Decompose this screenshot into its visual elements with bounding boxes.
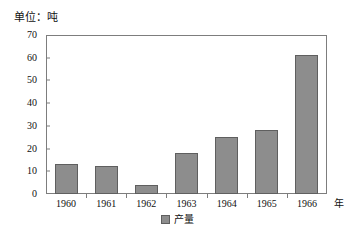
bar-chart-figure: 单位：吨 010203040506070 1960196119621963196… — [0, 0, 355, 237]
y-tick-label: 60 — [27, 53, 37, 63]
x-tick-label: 1961 — [96, 198, 116, 209]
y-tick-mark — [46, 57, 50, 58]
bar — [255, 130, 278, 194]
chart-legend: 产量 — [0, 214, 355, 225]
y-tick-label: 20 — [27, 144, 37, 154]
unit-caption: 单位：吨 — [14, 11, 58, 23]
x-tick-mark — [287, 194, 288, 198]
y-tick-mark — [46, 80, 50, 81]
y-tick-mark — [46, 148, 50, 149]
x-tick-label: 1965 — [257, 198, 277, 209]
x-tick-label: 1962 — [136, 198, 156, 209]
y-tick-label: 50 — [27, 75, 37, 85]
x-tick-label: 1966 — [297, 198, 317, 209]
bar — [295, 55, 318, 194]
y-axis: 010203040506070 — [0, 35, 43, 194]
y-tick-mark — [46, 125, 50, 126]
bar — [135, 185, 158, 194]
bar — [55, 164, 78, 194]
y-tick-label: 0 — [32, 189, 37, 199]
x-tick-mark — [126, 194, 127, 198]
legend-swatch-output — [161, 215, 170, 224]
x-axis-title: 年 — [334, 198, 344, 209]
x-tick-mark — [207, 194, 208, 198]
bar — [215, 137, 238, 194]
legend-label-output: 产量 — [174, 214, 194, 225]
y-tick-mark — [46, 171, 50, 172]
bar — [175, 153, 198, 194]
x-tick-label: 1960 — [56, 198, 76, 209]
x-tick-label: 1964 — [217, 198, 237, 209]
y-tick-label: 30 — [27, 121, 37, 131]
bars-layer — [46, 35, 327, 194]
x-tick-label: 1963 — [177, 198, 197, 209]
y-tick-label: 70 — [27, 30, 37, 40]
x-tick-mark — [166, 194, 167, 198]
y-tick-label: 40 — [27, 98, 37, 108]
y-tick-mark — [46, 103, 50, 104]
bar — [95, 166, 118, 194]
x-tick-mark — [247, 194, 248, 198]
y-tick-label: 10 — [27, 166, 37, 176]
x-tick-mark — [86, 194, 87, 198]
